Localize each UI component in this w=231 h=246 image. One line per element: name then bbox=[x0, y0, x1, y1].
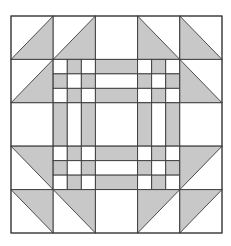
cell-background bbox=[95, 190, 137, 233]
nine-patch-square bbox=[67, 175, 81, 189]
nine-patch-square bbox=[81, 74, 95, 88]
rail-strip bbox=[95, 88, 137, 102]
quilt-block-diagram bbox=[0, 0, 231, 246]
rail-strip bbox=[95, 59, 137, 73]
rail-strip bbox=[67, 103, 81, 146]
rail-strip bbox=[95, 175, 137, 189]
nine-patch-square bbox=[166, 88, 180, 102]
nine-patch-square bbox=[67, 161, 81, 175]
nine-patch-square bbox=[152, 161, 166, 175]
nine-patch-square bbox=[138, 161, 152, 175]
nine-patch-square bbox=[166, 161, 180, 175]
nine-patch-square bbox=[53, 161, 67, 175]
nine-patch-square bbox=[166, 146, 180, 160]
nine-patch-square bbox=[138, 88, 152, 102]
rail-strip bbox=[138, 103, 152, 146]
cell-background bbox=[95, 103, 137, 146]
rail-strip bbox=[53, 103, 67, 146]
rail-strip bbox=[95, 74, 137, 88]
nine-patch-square bbox=[67, 88, 81, 102]
nine-patch-square bbox=[166, 59, 180, 73]
cell-background bbox=[11, 103, 53, 146]
nine-patch-square bbox=[81, 146, 95, 160]
rail-strip bbox=[95, 161, 137, 175]
cell-background bbox=[180, 103, 222, 146]
nine-patch-square bbox=[166, 175, 180, 189]
nine-patch-square bbox=[152, 88, 166, 102]
rail-strip bbox=[95, 146, 137, 160]
nine-patch-square bbox=[81, 88, 95, 102]
nine-patch-square bbox=[53, 74, 67, 88]
rail-strip bbox=[166, 103, 180, 146]
nine-patch-square bbox=[138, 146, 152, 160]
nine-patch-square bbox=[67, 146, 81, 160]
nine-patch-square bbox=[152, 74, 166, 88]
nine-patch-square bbox=[152, 146, 166, 160]
nine-patch-square bbox=[152, 175, 166, 189]
nine-patch-square bbox=[81, 175, 95, 189]
nine-patch-square bbox=[81, 161, 95, 175]
nine-patch-square bbox=[53, 175, 67, 189]
rail-strip bbox=[81, 103, 95, 146]
nine-patch-square bbox=[53, 59, 67, 73]
nine-patch-square bbox=[67, 74, 81, 88]
nine-patch-square bbox=[166, 74, 180, 88]
rail-strip bbox=[152, 103, 166, 146]
nine-patch-square bbox=[138, 74, 152, 88]
nine-patch-square bbox=[53, 88, 67, 102]
nine-patch-square bbox=[152, 59, 166, 73]
nine-patch-square bbox=[138, 175, 152, 189]
cell-background bbox=[95, 16, 137, 59]
nine-patch-square bbox=[53, 146, 67, 160]
nine-patch-square bbox=[138, 59, 152, 73]
nine-patch-square bbox=[81, 59, 95, 73]
nine-patch-square bbox=[67, 59, 81, 73]
